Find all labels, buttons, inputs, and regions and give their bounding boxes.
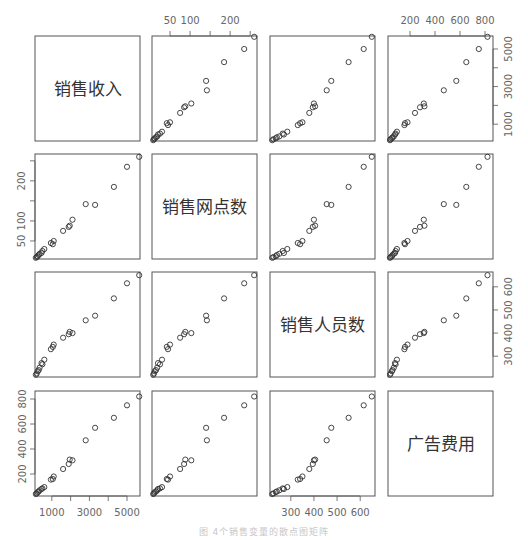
panel-frame [388,272,493,377]
x-tick-label: 300 [281,507,300,518]
data-point [222,296,227,301]
data-point [111,415,116,420]
data-point [83,438,88,443]
y-tick-label: 100 [17,211,28,230]
x-tick-label: 600 [450,15,469,26]
data-point [252,394,257,399]
panel-frame [270,391,375,496]
data-point [189,458,194,463]
data-point [369,394,374,399]
data-point [182,105,187,110]
y-tick-label: 400 [504,324,515,343]
data-point [222,60,227,65]
diagonal-label-panel: 广告费用 [388,391,493,496]
data-point [70,217,75,222]
scatter-panel [387,154,493,260]
y-tick-label: 200 [17,464,28,483]
data-point [485,154,490,159]
variable-label: 销售收入 [54,79,122,99]
scatter-panel [270,34,375,143]
data-point [83,202,88,207]
data-point [189,331,194,336]
data-point [476,281,481,286]
data-point [307,466,312,471]
data-point [476,46,481,51]
x-tick-label: 400 [425,15,444,26]
data-point [454,313,459,318]
data-point [137,273,142,278]
y-tick-label: 400 [17,439,28,458]
data-point [204,88,209,93]
y-tick-label: 600 [504,277,515,296]
scatter-panel [270,154,375,260]
data-point [93,313,98,318]
x-tick-label: 3000 [77,507,102,518]
data-point [307,110,312,115]
x-tick-label: 50 [164,15,177,26]
data-point [242,281,247,286]
data-point [324,88,329,93]
data-point [204,425,209,430]
data-point [485,273,490,278]
y-tick-label: 800 [17,389,28,408]
data-point [204,438,209,443]
y-tick-label: 50 [17,235,28,248]
data-point [124,403,129,408]
data-point [412,110,417,115]
data-point [61,228,66,233]
data-point [242,403,247,408]
data-point [361,403,366,408]
scatter-panel [151,272,257,377]
scatter-panel [270,391,375,497]
data-point [252,34,257,39]
data-point [454,78,459,83]
scatter-panel [151,34,257,143]
data-point [307,228,312,233]
x-tick-label: 400 [304,507,323,518]
x-tick-label: 200 [400,15,419,26]
data-point [189,101,194,106]
data-point [369,34,374,39]
data-point [311,217,316,222]
scatter-panel [33,391,142,497]
data-point [93,425,98,430]
data-point [252,273,257,278]
x-tick-label: 500 [328,507,347,518]
x-tick-label: 200 [221,15,240,26]
data-point [412,228,417,233]
scatter-panel [387,272,493,377]
panel-frame [270,154,375,259]
data-point [329,78,334,83]
data-point [441,88,446,93]
data-point [222,415,227,420]
panel-frame [388,154,493,259]
y-tick-label: 300 [504,347,515,366]
panel-frame [270,36,375,141]
data-point [346,184,351,189]
data-point [361,46,366,51]
figure-caption: 图 4个销售变量的散点图矩阵 [0,525,528,538]
data-point [66,224,71,229]
data-point [178,466,183,471]
data-point [124,281,129,286]
diagonal-label-panel: 销售收入 [35,36,140,141]
scatter-panel [151,391,257,497]
variable-label: 销售网点数 [162,197,247,217]
y-tick-label: 3000 [504,74,515,99]
data-point [124,164,129,169]
y-tick-label: 1000 [504,111,515,136]
data-point [454,202,459,207]
data-point [346,415,351,420]
x-tick-label: 800 [475,15,494,26]
data-point [324,438,329,443]
diagonal-label-panel: 销售人员数 [270,272,375,377]
data-point [61,335,66,340]
data-point [361,164,366,169]
y-tick-label: 500 [504,300,515,319]
data-point [83,318,88,323]
y-tick-label: 200 [17,171,28,190]
data-point [329,425,334,430]
data-point [369,154,374,159]
x-tick-label: 1000 [39,507,64,518]
data-point [137,394,142,399]
